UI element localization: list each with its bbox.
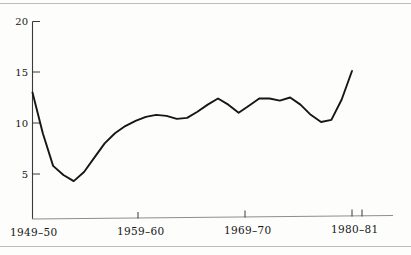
y-tick-label-15: 15 (15, 67, 28, 78)
x-axis-line (32, 216, 393, 220)
figure-container: 20 15 10 5 1949–50 1959–60 1969–70 1980–… (0, 0, 411, 255)
data-series-line (33, 71, 353, 181)
x-tick-label-1959-60: 1959–60 (117, 225, 164, 237)
x-tick-label-1969-70: 1969–70 (224, 224, 271, 236)
y-tick-label-10: 10 (15, 118, 28, 129)
line-chart: 20 15 10 5 1949–50 1959–60 1969–70 1980–… (0, 0, 411, 255)
x-tick-label-1980-81: 1980–81 (331, 223, 378, 235)
y-tick-label-5: 5 (22, 169, 28, 180)
x-tick-label-1949-50: 1949–50 (10, 226, 57, 238)
y-tick-label-20: 20 (15, 16, 28, 27)
